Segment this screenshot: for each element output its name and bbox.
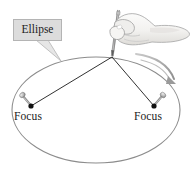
- pin-left: [19, 91, 34, 108]
- focus-left-dot: [28, 103, 33, 108]
- focus-label-left: Focus: [14, 111, 42, 123]
- motion-arrow-head: [166, 76, 176, 84]
- ellipse-figure: Ellipse Focus Focus: [0, 0, 192, 170]
- string-to-right-focus: [112, 57, 154, 106]
- string-to-left-focus: [31, 57, 112, 106]
- ellipse-callout-label: Ellipse: [22, 24, 54, 36]
- pencil-ferrule: [116, 11, 120, 15]
- ellipse-callout-box: Ellipse: [13, 19, 62, 41]
- string-group: [31, 57, 154, 106]
- focus-right-dot: [151, 103, 156, 108]
- hand: [110, 14, 190, 45]
- pin-right: [151, 91, 166, 108]
- motion-arrow: [136, 54, 176, 84]
- focus-label-right: Focus: [134, 111, 162, 123]
- pin-right-highlight: [156, 97, 163, 105]
- motion-arrow-outer: [136, 54, 174, 79]
- callout-tail: [36, 40, 61, 61]
- pin-left-highlight: [23, 97, 30, 105]
- motion-arrow-inner: [141, 60, 170, 80]
